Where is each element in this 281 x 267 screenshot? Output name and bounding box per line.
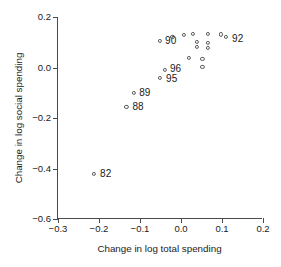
x-tick-label: −0.2 <box>90 224 109 234</box>
data-point-label: 95 <box>166 74 177 84</box>
scatter-plot-figure: 82888995969092 −0.6−0.4−0.20.00.2 −0.3−0… <box>0 0 281 267</box>
x-tick-label: 0.2 <box>256 224 269 234</box>
x-tick-label: 0.1 <box>215 224 228 234</box>
data-point-label: 82 <box>100 169 111 179</box>
data-point <box>200 65 204 69</box>
data-point-label: 96 <box>170 64 181 74</box>
y-tick-label: −0.2 <box>32 113 51 123</box>
y-tick-label: 0.0 <box>38 63 51 73</box>
y-tick-label: −0.4 <box>32 164 51 174</box>
y-tick-mark <box>53 17 58 18</box>
y-tick-mark <box>53 169 58 170</box>
data-point <box>200 57 204 61</box>
y-tick-mark <box>53 118 58 119</box>
data-point <box>158 76 162 80</box>
data-point <box>132 91 136 95</box>
x-tick-label: 0.0 <box>174 224 187 234</box>
data-point <box>206 41 210 45</box>
data-point-label: 92 <box>232 34 243 44</box>
x-axis-title: Change in log total spending <box>57 243 262 254</box>
data-point <box>187 56 191 60</box>
x-tick-label: −0.1 <box>131 224 150 234</box>
data-point <box>158 39 162 43</box>
data-point <box>224 35 228 39</box>
plot-area: 82888995969092 −0.6−0.4−0.20.00.2 −0.3−0… <box>57 17 262 219</box>
x-tick-label: −0.3 <box>49 224 68 234</box>
data-point <box>163 67 167 71</box>
data-point <box>194 45 198 49</box>
y-tick-label: 0.2 <box>38 12 51 22</box>
y-tick-mark <box>53 68 58 69</box>
data-point <box>182 33 186 37</box>
y-axis-title: Change in log social spending <box>13 17 24 219</box>
data-point-label: 88 <box>132 102 143 112</box>
data-point <box>92 171 96 175</box>
data-point <box>206 46 210 50</box>
data-point <box>124 105 128 109</box>
data-point-label: 89 <box>139 88 150 98</box>
data-point <box>191 32 195 36</box>
data-point <box>206 32 210 36</box>
data-point <box>219 32 223 36</box>
